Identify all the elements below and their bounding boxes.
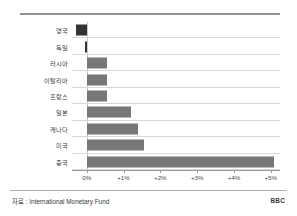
x-tick-label: +4%: [228, 174, 241, 181]
category-label-row: 중국: [20, 154, 72, 170]
category-label-row: 이탈리아: [20, 71, 72, 87]
category-label: 이탈리아: [44, 75, 68, 84]
category-label: 미국: [56, 141, 68, 150]
category-label-row: 일본: [20, 104, 72, 120]
category-label-row: 미국: [20, 137, 72, 153]
bar-row: [72, 121, 280, 137]
bar-row: [72, 104, 280, 120]
bar: [87, 140, 144, 151]
category-axis: 영국독일러시아이탈리아프랑스일본캐나다미국중국: [20, 22, 72, 170]
category-label: 영국: [56, 26, 68, 35]
bar-row: [72, 22, 280, 38]
plot-area: 영국독일러시아이탈리아프랑스일본캐나다미국중국: [20, 22, 280, 170]
bar: [87, 123, 139, 134]
category-label: 일본: [56, 108, 68, 117]
bar-row: [72, 137, 280, 153]
bar-row: [72, 55, 280, 71]
bar-row: [72, 88, 280, 104]
x-tick-label: +5%: [265, 174, 278, 181]
x-tick-mark: [197, 170, 198, 173]
x-tick-mark: [87, 170, 88, 173]
x-tick-mark: [124, 170, 125, 173]
x-tick-label: +3%: [191, 174, 204, 181]
bar: [87, 156, 275, 167]
bar: [76, 25, 87, 36]
x-tick-label: +2%: [154, 174, 167, 181]
x-tick-label: +1%: [117, 174, 130, 181]
chart-figure: 영국독일러시아이탈리아프랑스일본캐나다미국중국 0%+1%+2%+3%+4%+5…: [0, 0, 297, 216]
x-tick-mark: [271, 170, 272, 173]
bar: [87, 107, 131, 118]
bars-container: [72, 22, 280, 170]
x-tick-label: 0%: [82, 174, 91, 181]
category-label-row: 독일: [20, 38, 72, 54]
source-label: 자료 : International Monetary Fund: [12, 197, 109, 206]
brand-label: BBC: [271, 197, 285, 204]
top-divider: [20, 13, 280, 15]
category-label: 프랑스: [50, 91, 68, 100]
bar-row: [72, 71, 280, 87]
x-tick-mark: [160, 170, 161, 173]
bar-row: [72, 154, 280, 170]
x-tick-mark: [234, 170, 235, 173]
category-label-row: 캐나다: [20, 121, 72, 137]
category-label: 중국: [56, 157, 68, 166]
bar-row: [72, 38, 280, 54]
bar: [87, 58, 107, 69]
footer-divider: [10, 190, 287, 191]
x-axis-line: [72, 170, 280, 171]
category-label: 캐나다: [50, 124, 68, 133]
x-axis: 0%+1%+2%+3%+4%+5%: [72, 170, 280, 186]
category-label-row: 프랑스: [20, 88, 72, 104]
bar: [87, 74, 107, 85]
category-label-row: 영국: [20, 22, 72, 38]
bar: [85, 41, 87, 52]
bar: [87, 90, 107, 101]
category-label: 러시아: [50, 59, 68, 68]
category-label: 독일: [56, 42, 68, 51]
category-label-row: 러시아: [20, 55, 72, 71]
